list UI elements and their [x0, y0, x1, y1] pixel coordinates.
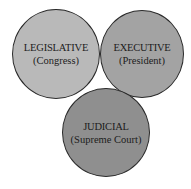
legislative-circle: LEGISLATIVE (Congress) — [12, 9, 100, 99]
legislative-subtitle: (Congress) — [33, 54, 79, 67]
executive-subtitle: (President) — [119, 54, 165, 67]
judicial-circle: JUDICIAL (Supreme Court) — [62, 88, 150, 177]
legislative-title: LEGISLATIVE — [24, 41, 88, 54]
judicial-title: JUDICIAL — [83, 120, 129, 133]
judicial-subtitle: (Supreme Court) — [71, 133, 142, 146]
executive-title: EXECUTIVE — [113, 41, 170, 54]
executive-circle: EXECUTIVE (President) — [100, 10, 184, 98]
